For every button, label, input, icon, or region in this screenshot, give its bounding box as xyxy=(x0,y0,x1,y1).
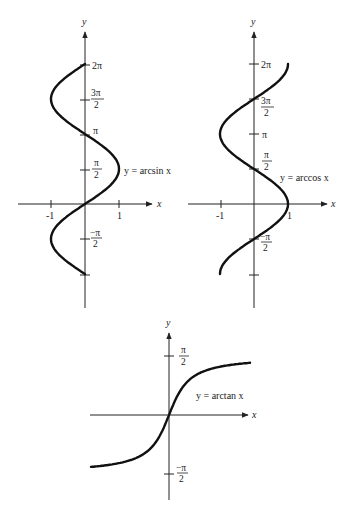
svg-text:2: 2 xyxy=(181,357,186,367)
x-axis-label: x xyxy=(330,198,336,209)
inverse-trig-figure: x y -1 1 2π 3π 2 π π 2 −π 2 y = ar xyxy=(0,0,349,510)
y-axis-label: y xyxy=(250,16,256,27)
x-tick-label: -1 xyxy=(216,210,224,221)
y-axis-label: y xyxy=(165,317,171,328)
x-axis-label: x xyxy=(251,409,257,420)
arctan-label: y = arctan x xyxy=(196,390,244,401)
svg-text:−π: −π xyxy=(90,228,100,238)
y-tick-label-neg-pi-2: −π 2 xyxy=(176,463,188,484)
svg-text:2: 2 xyxy=(93,239,98,249)
svg-text:3π: 3π xyxy=(261,96,271,106)
svg-text:2: 2 xyxy=(179,474,184,484)
svg-text:π: π xyxy=(181,345,186,355)
y-tick-label-pi-2: π 2 xyxy=(179,345,189,367)
svg-text:2: 2 xyxy=(264,162,269,172)
y-tick-label: π xyxy=(93,125,98,136)
svg-text:2: 2 xyxy=(94,100,99,110)
y-axis-label: y xyxy=(81,16,87,27)
y-tick-label: 2π xyxy=(92,60,102,71)
arcsin-plot: x y -1 1 2π 3π 2 π π 2 −π 2 y = ar xyxy=(18,16,171,308)
svg-text:π: π xyxy=(264,150,269,160)
y-tick-label-3pi-2: 3π 2 xyxy=(261,96,274,118)
y-tick-label: 2π xyxy=(261,59,271,70)
svg-text:3π: 3π xyxy=(91,88,101,98)
x-tick-label: 1 xyxy=(117,210,122,221)
arccos-plot: x y -1 1 2π 3π 2 π π 2 −π 2 y = arccos x xyxy=(188,16,336,308)
y-tick-label: π xyxy=(262,129,267,140)
x-tick-label: -1 xyxy=(46,210,54,221)
x-axis-label: x xyxy=(156,198,162,209)
svg-text:2: 2 xyxy=(94,170,99,180)
y-tick-label-pi-2: π 2 xyxy=(262,150,272,172)
svg-text:−π: −π xyxy=(176,463,186,473)
svg-text:2: 2 xyxy=(264,108,269,118)
arccos-label: y = arccos x xyxy=(280,172,329,183)
arctan-plot: x y π 2 −π 2 y = arctan x xyxy=(90,317,257,500)
y-tick-label-neg-pi-2: −π 2 xyxy=(90,228,102,249)
svg-text:2: 2 xyxy=(263,243,268,253)
y-tick-label-3pi-2: 3π 2 xyxy=(91,88,104,110)
x-tick-label: 1 xyxy=(287,210,292,221)
svg-text:π: π xyxy=(94,158,99,168)
arcsin-label: y = arcsin x xyxy=(124,165,171,176)
y-tick-label-pi-2: π 2 xyxy=(92,158,102,180)
